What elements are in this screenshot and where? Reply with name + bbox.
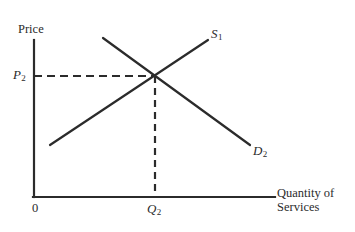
demand-curve-line: [103, 38, 250, 145]
demand-curve-symbol: D: [253, 143, 262, 158]
demand-curve-label: D2: [253, 144, 267, 159]
demand-curve-subscript: 2: [262, 149, 267, 159]
x-axis-title-line-1: Quantity of: [277, 186, 334, 200]
supply-curve-symbol: S: [211, 26, 218, 41]
equilibrium-quantity-symbol: Q: [147, 201, 156, 216]
supply-curve-label: S1: [211, 27, 222, 42]
supply-curve-subscript: 1: [218, 32, 223, 42]
origin-label: 0: [32, 202, 38, 215]
y-axis-title: Price: [18, 23, 44, 36]
supply-demand-chart: Price P2 S1 D2 0 Q2 Quantity of Services: [0, 0, 355, 232]
equilibrium-price-symbol: P: [13, 67, 21, 82]
x-axis-title-line-2: Services: [277, 200, 334, 214]
x-axis-title: Quantity of Services: [277, 186, 334, 214]
equilibrium-price-label: P2: [13, 68, 26, 83]
equilibrium-price-subscript: 2: [21, 73, 26, 83]
equilibrium-quantity-label: Q2: [147, 202, 161, 217]
equilibrium-quantity-subscript: 2: [156, 207, 161, 217]
